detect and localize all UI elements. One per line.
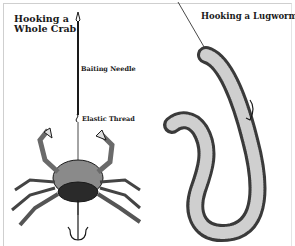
crab-title-line2: Whole Crab xyxy=(14,24,76,34)
elastic-thread-label: Elastic Thread xyxy=(82,116,135,123)
treble-hook-icon xyxy=(68,200,88,240)
fishing-line-icon xyxy=(178,2,207,52)
crab-panel-title: Hooking a Whole Crab xyxy=(14,14,76,34)
lugworm-icon xyxy=(172,55,257,233)
baiting-needle-label: Baiting Needle xyxy=(81,66,136,73)
lugworm-panel-title: Hooking a Lugworm xyxy=(201,12,295,21)
illustration xyxy=(0,0,295,246)
crab-icon xyxy=(12,128,140,225)
